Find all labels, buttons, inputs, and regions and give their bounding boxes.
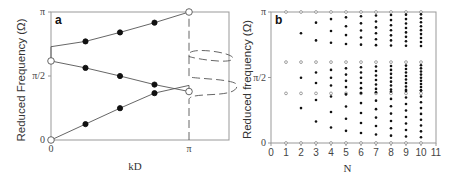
mode-marker [390,98,393,101]
edge-mode-marker [285,92,288,95]
mode-marker [390,80,393,83]
mode-marker [420,118,423,121]
mode-marker [345,73,348,76]
mode-marker [405,44,408,47]
edge-mode-marker [300,11,303,14]
mode-marker [390,120,393,123]
mode-marker [360,82,363,85]
mode-marker [345,34,348,37]
band-curve [51,85,189,140]
mode-marker [375,32,378,35]
mode-marker [390,105,393,108]
open-marker [186,88,193,95]
mode-marker [405,13,408,16]
mode-marker [420,86,423,89]
mode-marker [420,124,423,127]
mode-marker [420,113,423,116]
mode-marker [375,74,378,77]
x-tick-label: 10 [415,147,427,158]
mode-marker [360,29,363,32]
mode-marker [375,116,378,119]
mode-marker [345,93,348,96]
mode-marker [405,85,408,88]
mode-marker [375,14,378,17]
edge-mode-marker [360,142,363,145]
panel-label: b [275,13,282,27]
mode-marker [375,70,378,73]
mode-marker [315,120,318,123]
edge-mode-marker [360,61,363,64]
mode-marker [405,22,408,25]
mode-marker [405,135,408,138]
mode-marker [300,76,303,79]
mode-marker [420,64,423,67]
mode-marker [405,71,408,74]
mode-marker [405,82,408,85]
mode-marker [315,39,318,42]
mode-marker [405,27,408,30]
mode-marker [390,73,393,76]
filled-marker [83,122,88,127]
filled-marker [152,91,157,96]
mode-marker [420,45,423,48]
edge-mode-marker [345,61,348,64]
x-tick-label: 11 [431,147,442,158]
mode-marker [360,36,363,39]
mode-marker [390,69,393,72]
mode-marker [330,41,333,44]
edge-mode-marker [315,142,318,145]
plot-frame [271,12,436,143]
band-curve [51,12,189,47]
filled-marker [152,20,157,25]
edge-mode-marker [285,142,288,145]
mode-marker [420,41,423,44]
mode-marker [375,26,378,29]
mode-marker [405,96,408,99]
mode-marker [390,65,393,68]
filled-marker [117,30,122,35]
mode-marker [390,76,393,79]
mode-marker [390,134,393,137]
edge-mode-marker [420,92,423,95]
edge-mode-marker [300,92,303,95]
mode-marker [360,122,363,125]
mode-marker [345,25,348,28]
mode-marker [420,37,423,40]
mode-marker [375,108,378,111]
mode-marker [345,130,348,133]
mode-marker [360,132,363,135]
mode-marker [375,88,378,91]
open-marker [186,9,193,16]
mode-marker [420,33,423,36]
edge-mode-marker [315,11,318,14]
mode-marker [390,29,393,32]
mode-marker [405,78,408,81]
edge-mode-marker [405,11,408,14]
mode-marker [420,29,423,32]
edge-mode-marker [420,61,423,64]
edge-mode-marker [420,142,423,145]
y-tick-label: π/2 [32,70,45,81]
x-tick-label: π [186,143,191,154]
mode-marker [375,44,378,47]
mode-marker [315,71,318,74]
mode-marker [390,19,393,22]
mode-marker [345,105,348,108]
filled-marker [83,65,88,70]
mode-marker [405,75,408,78]
x-tick-label: 0 [49,143,54,154]
mode-marker [330,111,333,114]
mode-marker [420,70,423,73]
edge-mode-marker [315,92,318,95]
mode-marker [405,40,408,43]
mode-marker [420,76,423,79]
mode-marker [345,80,348,83]
mode-marker [315,82,318,85]
mode-marker [330,18,333,21]
edge-mode-marker [405,142,408,145]
mode-marker [390,88,393,91]
mode-marker [345,117,348,120]
y-axis-label: Reduced frequency (Ω) [241,20,253,139]
x-tick-label: 2 [298,147,304,158]
edge-mode-marker [285,11,288,14]
